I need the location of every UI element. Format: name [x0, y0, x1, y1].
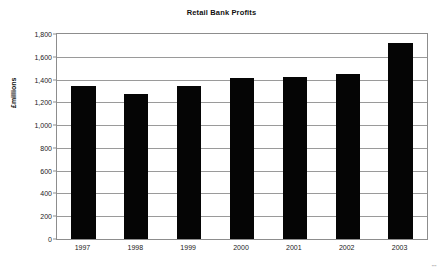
y-tick-label: 1,600: [34, 53, 52, 60]
bar-2000: [230, 78, 254, 239]
y-tick-label: 1,200: [34, 99, 52, 106]
y-tick-label: 1,800: [34, 31, 52, 38]
bar-2001: [283, 77, 307, 239]
y-tick-label: 400: [40, 190, 52, 197]
y-tick-label: 0: [48, 236, 52, 243]
x-tick-label-2000: 2000: [233, 244, 249, 251]
bar-chart-figure: Retail Bank Profits £millions 0200400600…: [0, 0, 443, 273]
x-tick-label-2002: 2002: [339, 244, 355, 251]
bar-1997: [71, 86, 95, 239]
bar-1999: [177, 86, 201, 239]
x-tick-label-1997: 1997: [75, 244, 91, 251]
x-tick-label-2003: 2003: [392, 244, 408, 251]
page-corner-mark: "": [432, 264, 437, 270]
plot-area: 02004006008001,0001,2001,4001,6001,800: [56, 33, 428, 240]
y-tick-label: 600: [40, 167, 52, 174]
y-tick-label: 800: [40, 144, 52, 151]
bar-2003: [388, 43, 412, 239]
chart-title: Retail Bank Profits: [0, 8, 443, 17]
y-tick-label: 1,400: [34, 76, 52, 83]
x-tick-label-2001: 2001: [286, 244, 302, 251]
x-tick-label-1998: 1998: [127, 244, 143, 251]
x-axis-labels: 1997199819992000200120022003: [56, 244, 428, 258]
bars-layer: [57, 34, 427, 239]
bar-1998: [124, 94, 148, 239]
bar-2002: [336, 74, 360, 239]
x-tick-label-1999: 1999: [180, 244, 196, 251]
y-tick-label: 200: [40, 213, 52, 220]
y-tick-label: 1,000: [34, 122, 52, 129]
y-axis-title: £millions: [10, 78, 17, 108]
